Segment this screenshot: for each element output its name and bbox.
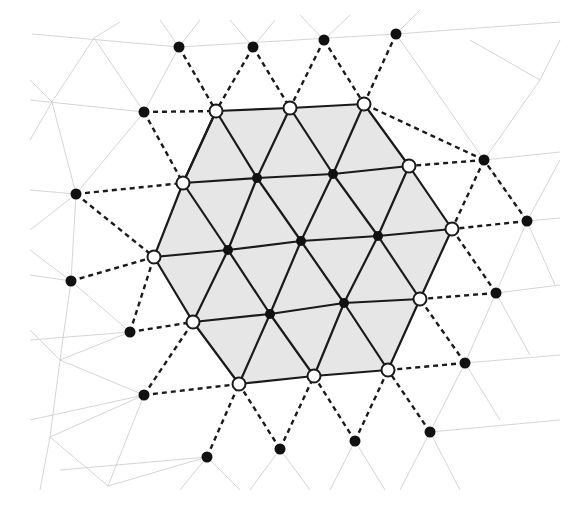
grid-line xyxy=(207,457,240,490)
dashed-edge xyxy=(452,221,527,229)
boundary-vertex-circle xyxy=(403,160,416,173)
boundary-vertex-circle xyxy=(148,251,161,264)
dashed-edge xyxy=(130,257,154,332)
dashed-edge xyxy=(280,376,314,449)
boundary-vertex-circle xyxy=(308,370,321,383)
grid-line xyxy=(71,194,76,281)
boundary-vertex-circle xyxy=(284,102,297,115)
grid-line xyxy=(484,80,540,160)
grid-line xyxy=(396,22,560,34)
dashed-edge xyxy=(76,194,154,257)
boundary-vertex-circle xyxy=(187,316,200,329)
boundary-vertex-circle xyxy=(382,364,395,377)
dashed-edge xyxy=(239,384,280,449)
grid-line xyxy=(465,293,496,363)
outer-vertex-dot xyxy=(139,107,150,118)
interior-vertex-dot xyxy=(373,231,383,241)
outer-vertex-dot xyxy=(491,288,502,299)
dashed-edge xyxy=(409,160,484,166)
dashed-edge xyxy=(388,363,465,370)
dashed-edge xyxy=(76,183,183,194)
grid-line xyxy=(30,190,76,194)
grid-line xyxy=(30,332,130,340)
grid-line xyxy=(30,330,60,360)
grid-line xyxy=(465,355,560,363)
boundary-vertex-circle xyxy=(358,98,371,111)
dashed-edge xyxy=(484,160,527,221)
interior-vertex-dot xyxy=(328,169,338,179)
outer-vertex-dot xyxy=(139,390,150,401)
dashed-edge xyxy=(364,34,396,104)
interior-vertex-dot xyxy=(296,236,306,246)
dashed-edge xyxy=(290,40,324,108)
grid-line xyxy=(30,395,144,420)
grid-line xyxy=(465,363,500,420)
outer-vertex-dot xyxy=(319,35,330,46)
grid-line xyxy=(50,437,108,486)
grid-line xyxy=(40,437,50,490)
dashed-edge xyxy=(253,47,290,108)
dashed-edge xyxy=(452,229,496,293)
boundary-vertex-circle xyxy=(446,223,459,236)
interior-vertex-dot xyxy=(252,173,262,183)
grid-line xyxy=(52,102,76,194)
grid-line xyxy=(540,40,560,80)
grid-line xyxy=(496,285,560,293)
dashed-edge xyxy=(144,322,193,395)
grid-line xyxy=(94,22,120,38)
grid-line xyxy=(32,34,179,47)
grid-line xyxy=(94,38,144,112)
grid-line xyxy=(430,420,560,432)
dashed-edge xyxy=(314,376,355,441)
grid-line xyxy=(30,102,52,140)
grid-line xyxy=(484,152,560,160)
dashed-edge xyxy=(420,293,496,299)
outer-vertex-dot xyxy=(350,436,361,447)
outer-vertex-dot xyxy=(125,327,136,338)
dashed-edge xyxy=(324,40,364,104)
grid-line xyxy=(60,332,130,360)
dashed-edge xyxy=(207,384,239,457)
interior-vertex-dot xyxy=(223,245,233,255)
outer-vertex-dot xyxy=(460,358,471,369)
interior-vertex-dot xyxy=(339,298,349,308)
grid-line xyxy=(330,441,355,490)
outer-vertex-dot xyxy=(66,276,77,287)
dashed-edge xyxy=(130,322,193,332)
outer-vertex-dot xyxy=(425,427,436,438)
grid-line xyxy=(30,80,52,102)
outer-vertex-dot xyxy=(275,444,286,455)
dashed-edge xyxy=(144,384,239,395)
grid-line xyxy=(60,281,71,360)
grid-line xyxy=(30,194,76,230)
grid-line xyxy=(180,457,207,490)
boundary-vertex-circle xyxy=(177,177,190,190)
dashed-edge xyxy=(216,47,253,111)
grid-line xyxy=(396,34,484,160)
grid-line xyxy=(430,432,460,490)
boundary-vertex-circle xyxy=(233,378,246,391)
grid-line xyxy=(71,281,130,332)
outer-vertex-dot xyxy=(202,452,213,463)
grid-line xyxy=(144,47,179,112)
grid-line xyxy=(527,160,560,221)
grid-line xyxy=(250,449,280,490)
dashed-edge xyxy=(144,112,183,183)
dashed-edge xyxy=(71,257,154,281)
boundary-vertex-circle xyxy=(414,293,427,306)
grid-line xyxy=(470,40,540,80)
grid-line xyxy=(280,449,310,490)
grid-line xyxy=(430,363,465,432)
grid-line xyxy=(496,221,527,293)
dashed-edge xyxy=(388,370,430,432)
dashed-edge xyxy=(179,47,216,111)
boundary-vertex-circle xyxy=(210,105,223,118)
dashed-edge xyxy=(420,299,465,363)
outer-vertex-dot xyxy=(391,29,402,40)
grid-line xyxy=(527,221,555,285)
grid-line xyxy=(50,360,60,437)
outer-vertex-dot xyxy=(71,189,82,200)
triangle-mesh-diagram xyxy=(0,0,575,517)
dashed-edge xyxy=(144,111,216,112)
outer-vertex-dot xyxy=(479,155,490,166)
